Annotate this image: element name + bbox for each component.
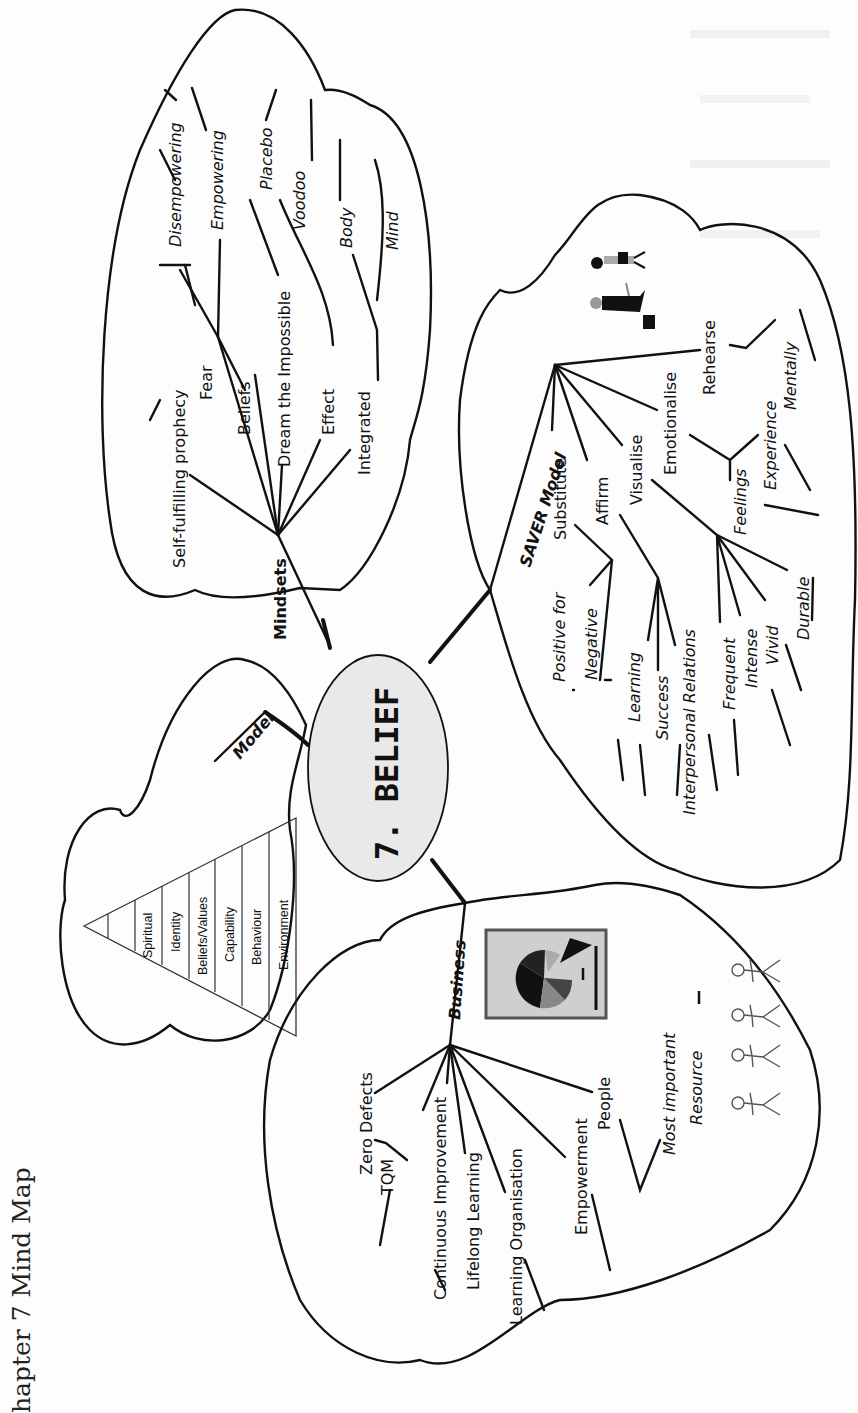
mind-map: hapter 7 Mind Map Mindsets Self-fulfilli… bbox=[0, 0, 858, 1413]
business-people-icon bbox=[590, 252, 655, 329]
mindsets-item: Dream the Impossible bbox=[275, 291, 294, 467]
business-item: People bbox=[595, 1077, 614, 1130]
mindsets-item: Integrated bbox=[355, 391, 374, 475]
logical-levels-pyramid: Spiritual Identity Beliefs/Values Capabi… bbox=[84, 818, 296, 1036]
saver-sub-item: Experience bbox=[761, 401, 780, 490]
branch-label-model: Model bbox=[229, 708, 279, 763]
saver-sub-item: Interpersonal Relations bbox=[680, 629, 699, 815]
pyramid-level: Beliefs/Values bbox=[196, 897, 210, 975]
pyramid-level: Behaviour bbox=[250, 909, 264, 965]
saver-sub-item: Intense bbox=[742, 629, 761, 688]
pyramid-level: Environment bbox=[277, 899, 291, 970]
page-caption: hapter 7 Mind Map bbox=[7, 1167, 36, 1413]
mindsets-sub-item: Disempowering bbox=[166, 122, 185, 247]
mindsets-sub-item: Mind bbox=[383, 211, 402, 250]
center-title: 7. BELIEF bbox=[368, 687, 406, 860]
center-node: 7. BELIEF bbox=[308, 655, 448, 881]
mindsets-cloud bbox=[102, 10, 431, 646]
branch-label-mindsets: Mindsets bbox=[271, 558, 290, 640]
saver-sub-item: Feelings bbox=[731, 469, 750, 535]
business-sub-item: Resource bbox=[687, 1050, 706, 1125]
saver-item: Affirm bbox=[593, 477, 612, 525]
saver-item: Visualise bbox=[627, 435, 646, 505]
mindsets-sub-item: Empowering bbox=[208, 130, 227, 230]
saver-item: Substitute bbox=[551, 458, 570, 540]
business-item: Learning Organisation bbox=[507, 1148, 526, 1325]
saver-item: Rehearse bbox=[700, 320, 719, 395]
saver-sub-item: Frequent bbox=[720, 637, 739, 710]
people-group-icon bbox=[732, 960, 780, 1115]
saver-item: Emotionalise bbox=[661, 372, 680, 475]
saver-sub-item: Mentally bbox=[781, 341, 800, 410]
business-item: Lifelong Learning bbox=[464, 1152, 483, 1290]
pyramid-level: Spiritual bbox=[141, 913, 155, 958]
business-item: Continuous Improvement bbox=[431, 1097, 450, 1300]
mindsets-item: Effect bbox=[319, 389, 338, 435]
pie-chart-icon bbox=[486, 930, 606, 1018]
mindsets-item: Self-fulfilling prophecy bbox=[170, 389, 189, 568]
saver-sub-item: Learning bbox=[625, 652, 644, 722]
saver-sub-item: Positive for bbox=[550, 591, 569, 682]
saver-labels: SAVER Model Substitute Affirm Visualise … bbox=[516, 320, 813, 815]
business-item: Zero Defects bbox=[357, 1072, 376, 1175]
saver-sub-item: Vivid bbox=[763, 625, 782, 665]
model-cloud: Spiritual Identity Beliefs/Values Capabi… bbox=[60, 659, 308, 1045]
saver-sub-item: Success bbox=[653, 676, 672, 740]
saver-sub-item: Negative bbox=[582, 608, 601, 680]
branch-label-business: Business bbox=[445, 939, 470, 1020]
pyramid-level: Identity bbox=[169, 911, 183, 952]
bleed-through-text bbox=[690, 30, 830, 238]
mindsets-item: Beliefs bbox=[235, 381, 254, 435]
business-sub-item: Most important bbox=[660, 1032, 679, 1155]
saver-sub-item: Durable bbox=[794, 577, 813, 640]
pyramid-level: Capability bbox=[223, 906, 237, 962]
mindsets-sub-item: Body bbox=[337, 207, 356, 248]
business-item: TQM bbox=[378, 1159, 397, 1196]
business-item: Empowerment bbox=[572, 1118, 591, 1235]
mindsets-item: Fear bbox=[197, 365, 216, 400]
mindsets-sub-item: Placebo bbox=[257, 127, 276, 190]
mindsets-sub-item: Voodoo bbox=[290, 170, 309, 230]
